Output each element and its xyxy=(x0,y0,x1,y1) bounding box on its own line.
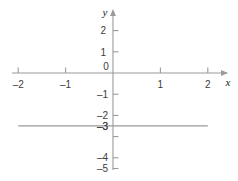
y-tick-label--3-overlay: –3 xyxy=(97,121,109,132)
x-tick-label-0: 0 xyxy=(103,61,109,72)
x-tick-label-1: 1 xyxy=(158,79,164,90)
y-tick-label-2: 2 xyxy=(100,25,106,36)
y-tick-label-1: 1 xyxy=(100,47,106,58)
x-tick-label--2: –2 xyxy=(13,79,25,90)
x-tick-label--1: –1 xyxy=(60,79,72,90)
x-tick-label-2: 2 xyxy=(205,79,211,90)
y-tick-label--4: –4 xyxy=(97,152,109,163)
graph-figure: –2 –1 0 1 2 x 2 1 –1 –2 –3 –4 –5 xyxy=(0,0,238,181)
y-tick-label--1: –1 xyxy=(97,89,109,100)
x-axis-label: x xyxy=(225,76,231,88)
y-axis-label: y xyxy=(102,6,108,18)
x-axis-group: –2 –1 0 1 2 x xyxy=(12,61,231,90)
y-tick-label--2: –2 xyxy=(97,110,109,121)
y-axis-arrow-icon xyxy=(110,9,116,16)
y-axis-group: 2 1 –1 –2 –3 –4 –5 y xyxy=(97,6,119,174)
coordinate-plane-svg: –2 –1 0 1 2 x 2 1 –1 –2 –3 –4 –5 xyxy=(0,0,238,181)
y-tick-label--5: –5 xyxy=(97,163,109,174)
